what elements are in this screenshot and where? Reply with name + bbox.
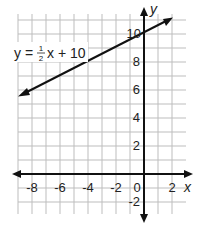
svg-text:-6: -6 [54,180,66,195]
svg-text:y =: y = [14,45,33,61]
line-left-arrow-icon [18,88,30,97]
svg-text:4: 4 [133,110,140,125]
svg-text:2: 2 [168,180,175,195]
svg-text:2: 2 [39,54,44,63]
svg-text:10: 10 [127,26,141,41]
y-axis-label: y [149,1,158,17]
x-axis-label: x [183,179,192,195]
y-axis-up-arrow-icon [140,7,148,16]
svg-text:6: 6 [133,82,140,97]
y-axis [140,7,148,223]
svg-text:-2: -2 [110,180,122,195]
y-axis-down-arrow-icon [140,214,148,223]
svg-text:x + 10: x + 10 [47,45,86,61]
svg-text:1: 1 [39,44,44,53]
svg-text:-8: -8 [26,180,38,195]
svg-text:-4: -4 [82,180,94,195]
coordinate-plane: -8 -6 -4 -2 0 2 10 8 6 4 2 -2 y x y = 1 … [0,0,201,230]
equation-label: y = 1 2 x + 10 [12,42,88,63]
svg-text:0: 0 [133,180,140,195]
svg-text:-2: -2 [128,194,140,209]
x-axis-left-arrow-icon [12,170,21,178]
svg-text:8: 8 [133,54,140,69]
x-axis-right-arrow-icon [184,170,193,178]
svg-text:2: 2 [133,138,140,153]
